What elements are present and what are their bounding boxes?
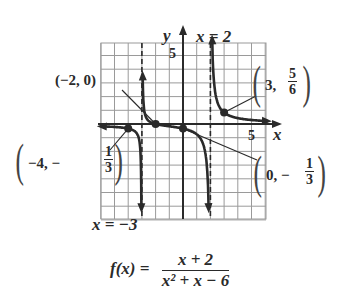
function-formula: f(x) = x + 2 x² + x − 6 [110,250,229,291]
denominator: 6 [288,82,297,97]
left-paren: ( [253,150,261,196]
point-prefix: −4, − [28,155,60,172]
formula-fraction: x + 2 x² + x − 6 [162,250,230,291]
points [124,109,228,133]
left-paren: ( [252,60,260,106]
formula-denominator: x² + x − 6 [162,271,230,291]
x-axis-label: x [273,125,282,145]
tick-label-y5: 5 [169,46,176,62]
fraction: 5 6 [288,66,297,97]
asymptote-label-xneg3: x = −3 [92,215,138,235]
right-paren: ) [302,60,310,106]
denominator: 3 [305,172,314,187]
y-axis-label: y [163,26,171,46]
left-paren: ( [15,138,23,184]
right-paren: ) [317,150,325,196]
numerator: 1 [305,156,314,172]
point-prefix: 3, [265,77,276,94]
numerator: 5 [288,66,297,82]
asymptote-label-x2: x = 2 [196,27,231,47]
right-paren: ) [114,138,122,184]
point-prefix: 0, − [266,167,290,184]
denominator: 3 [104,160,113,175]
point-label-neg2-0: (−2, 0) [55,72,96,89]
fraction: 1 3 [104,144,113,175]
fraction: 1 3 [305,156,314,187]
numerator: 1 [104,144,113,160]
tick-label-x5: 5 [248,128,255,144]
formula-numerator: x + 2 [162,250,230,271]
formula-lhs: f(x) = [110,259,149,278]
